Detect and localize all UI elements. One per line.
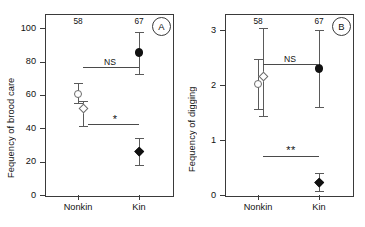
panel-a-marker-nonkin-circle — [74, 90, 82, 98]
panel-b-y-axis-label: Fequency of digging — [187, 42, 197, 172]
panel-b-errorcap-lower-nonkin-diamond — [259, 116, 268, 117]
panel-a-ytick-0: 0 — [16, 191, 36, 200]
panel-a-errorcap-upper-nonkin-circle — [74, 83, 83, 84]
panel-b-errorcap-lower-nonkin-circle — [254, 109, 263, 110]
panel-a-sig-label-ns: NS — [93, 57, 127, 67]
panel-a-ytick-80: 80 — [16, 57, 36, 66]
panel-b-sig-line-asterisk — [263, 156, 319, 157]
panel-a-plot-frame — [45, 14, 174, 197]
panel-b-errorcap-lower-kin-diamond — [315, 191, 324, 192]
panel-a-errorcap-lower-nonkin-circle — [74, 103, 83, 104]
panel-a-marker-kin-circle — [135, 48, 144, 57]
panel-b-errorcap-upper-kin-circle — [315, 30, 324, 31]
panel-b-sig-line-ns — [263, 64, 319, 65]
panel-a-ytick-100: 100 — [13, 24, 36, 33]
panel-b-n-nonkin: 58 — [243, 16, 273, 26]
panel-b-tag: B — [332, 17, 351, 36]
panel-a-ytick-60: 60 — [16, 90, 36, 99]
panel-b-xtickmark-nonkin — [258, 195, 259, 200]
panel-b-ytick-3: 3 — [196, 26, 216, 35]
panel-a: Fequency of brood care 0 20 40 60 80 100… — [0, 0, 182, 227]
panel-a-xtickmark-kin — [139, 195, 140, 200]
panel-b: Fequency of digging 0 1 2 3 58 67 B — [183, 0, 365, 227]
panel-a-n-kin: 67 — [124, 16, 154, 26]
figure-container: Fequency of brood care 0 20 40 60 80 100… — [0, 0, 365, 227]
panel-b-errorcap-upper-kin-diamond — [315, 173, 324, 174]
panel-b-plot-frame — [225, 14, 354, 197]
panel-b-n-kin: 67 — [304, 16, 334, 26]
panel-a-errorcap-lower-kin-circle — [135, 74, 144, 75]
panel-b-marker-kin-circle — [315, 64, 324, 73]
panel-a-sig-line-ns — [83, 67, 139, 68]
panel-a-errorcap-lower-nonkin-diamond — [79, 126, 88, 127]
panel-b-errorcap-upper-nonkin-diamond — [259, 28, 268, 29]
panel-b-xlabel-kin: Kin — [300, 202, 338, 212]
panel-a-y-axis-label: Fequency of brood care — [6, 38, 16, 178]
panel-b-ytick-2: 2 — [196, 81, 216, 90]
panel-b-errorcap-upper-nonkin-circle — [254, 59, 263, 60]
panel-b-ytick-0: 0 — [196, 191, 216, 200]
panel-b-xtickmark-kin — [319, 195, 320, 200]
panel-a-sig-label-asterisk: * — [98, 113, 132, 125]
panel-a-errorcap-lower-kin-diamond — [135, 165, 144, 166]
panel-a-ytick-40: 40 — [16, 124, 36, 133]
panel-b-xlabel-nonkin: Nonkin — [235, 202, 281, 212]
panel-a-errorcap-upper-kin-circle — [135, 32, 144, 33]
panel-a-ytick-20: 20 — [16, 157, 36, 166]
panel-b-sig-label-asterisk: ** — [274, 144, 308, 156]
panel-b-sig-label-ns: NS — [273, 54, 307, 64]
panel-a-xtickmark-nonkin — [78, 195, 79, 200]
panel-b-ytick-1: 1 — [196, 136, 216, 145]
panel-b-errorcap-lower-kin-circle — [315, 107, 324, 108]
panel-a-errorcap-upper-kin-diamond — [135, 138, 144, 139]
panel-a-xlabel-nonkin: Nonkin — [55, 202, 101, 212]
panel-a-n-nonkin: 58 — [63, 16, 93, 26]
panel-a-xlabel-kin: Kin — [120, 202, 158, 212]
panel-a-tag: A — [152, 17, 171, 36]
